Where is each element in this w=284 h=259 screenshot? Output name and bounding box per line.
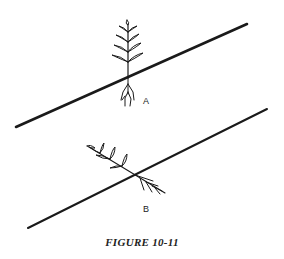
plant-a-icon: [112, 20, 143, 106]
figure-drawing: [0, 0, 284, 259]
figure-caption: FIGURE 10-11: [0, 236, 284, 248]
plant-b-icon: [87, 143, 165, 194]
panel-label-b: B: [143, 204, 149, 214]
panel-label-a: A: [143, 96, 149, 106]
